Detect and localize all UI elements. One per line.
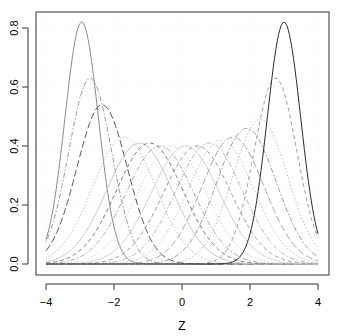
x-tick-label: 2 [247, 296, 253, 308]
x-tick-label: −4 [40, 296, 53, 308]
x-axis: −4−2024 [40, 284, 321, 308]
y-tick-label: 0.0 [8, 256, 20, 271]
density-chart: −4−2024 0.00.20.40.60.8 Z [0, 0, 339, 336]
density-curve-c15 [46, 119, 318, 264]
y-tick-label: 0.4 [8, 138, 20, 153]
grid-lines [37, 13, 328, 274]
y-axis: 0.00.20.40.60.8 [8, 20, 28, 271]
y-tick-label: 0.8 [8, 20, 20, 35]
x-tick-label: 4 [315, 296, 321, 308]
y-tick-label: 0.6 [8, 79, 20, 94]
y-tick-label: 0.2 [8, 197, 20, 212]
x-tick-label: 0 [179, 296, 185, 308]
x-axis-title: Z [178, 319, 185, 333]
x-tick-label: −2 [108, 296, 121, 308]
